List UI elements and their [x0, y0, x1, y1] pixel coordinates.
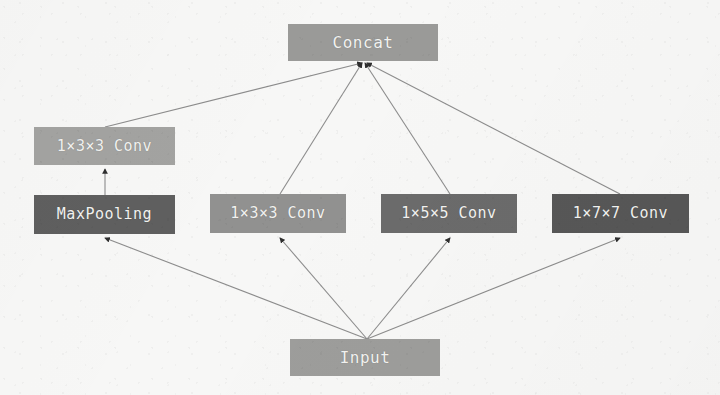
edge-input-to-conv3 — [280, 238, 367, 339]
node-conv7[interactable]: 1×7×7 Conv — [552, 194, 689, 233]
node-label-conv5: 1×5×5 Conv — [401, 206, 496, 221]
node-label-conv3: 1×3×3 Conv — [230, 206, 325, 221]
diagram-canvas: Concat1×3×3 ConvMaxPooling1×3×3 Conv1×5×… — [0, 0, 720, 395]
edge-group — [105, 63, 620, 339]
edge-input-to-conv5 — [367, 238, 450, 339]
node-pool_conv[interactable]: 1×3×3 Conv — [34, 127, 175, 165]
edge-conv5-to-concat — [365, 63, 450, 194]
edge-input-to-conv7 — [367, 238, 620, 339]
node-label-concat: Concat — [333, 35, 394, 51]
edge-conv7-to-concat — [367, 63, 620, 194]
node-label-pool_conv: 1×3×3 Conv — [57, 139, 152, 154]
node-conv3[interactable]: 1×3×3 Conv — [210, 194, 346, 233]
edge-input-to-maxpool — [105, 238, 367, 339]
node-label-input: Input — [340, 350, 391, 366]
edge-poolconv-to-concat — [105, 63, 362, 127]
node-concat[interactable]: Concat — [288, 24, 438, 61]
node-conv5[interactable]: 1×5×5 Conv — [381, 194, 517, 233]
node-label-maxpool: MaxPooling — [57, 207, 152, 222]
node-label-conv7: 1×7×7 Conv — [573, 206, 668, 221]
node-input[interactable]: Input — [290, 339, 440, 376]
node-maxpool[interactable]: MaxPooling — [34, 195, 175, 234]
edge-conv3-to-concat — [280, 63, 362, 194]
